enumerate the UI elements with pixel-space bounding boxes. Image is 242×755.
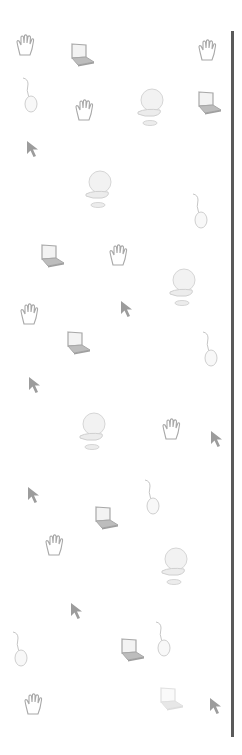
computer-icon (76, 410, 110, 452)
arrow-icon (27, 486, 41, 504)
hand-icon (14, 33, 38, 57)
hand-icon (160, 417, 184, 441)
hand-icon (43, 533, 67, 557)
vertical-divider-line (231, 31, 234, 737)
arrow-icon (209, 697, 223, 715)
laptop-icon (66, 42, 96, 68)
arrow-icon (210, 430, 224, 448)
arrow-icon (26, 140, 40, 158)
laptop-icon (116, 637, 146, 663)
mouse-icon (10, 630, 32, 668)
mouse-icon (200, 330, 222, 368)
arrow-icon (120, 300, 134, 318)
laptop-icon (36, 243, 66, 269)
mouse-icon (153, 620, 175, 658)
hand-icon (73, 98, 97, 122)
laptop-icon (62, 330, 92, 356)
laptop-icon (90, 505, 120, 531)
hand-icon (22, 692, 46, 716)
hand-icon (18, 302, 42, 326)
arrow-icon (28, 376, 42, 394)
mouse-icon (142, 478, 164, 516)
computer-icon (134, 86, 168, 128)
mouse-icon (20, 76, 42, 114)
computer-icon (166, 266, 200, 308)
laptop-icon (155, 686, 185, 712)
arrow-icon (70, 602, 84, 620)
computer-icon (82, 168, 116, 210)
hand-icon (107, 243, 131, 267)
laptop-icon (193, 90, 223, 116)
hand-icon (196, 38, 220, 62)
mouse-icon (190, 192, 212, 230)
computer-icon (158, 545, 192, 587)
